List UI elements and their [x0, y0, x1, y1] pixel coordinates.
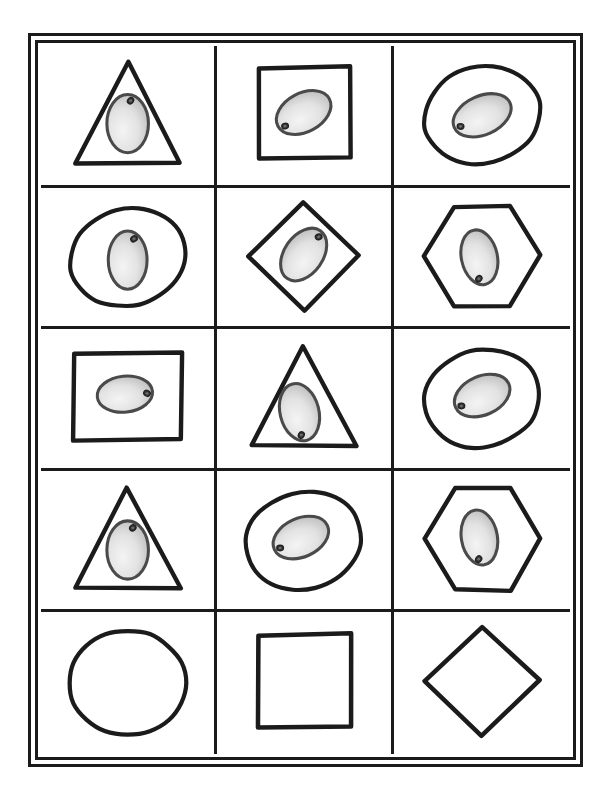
grid-cell-6[interactable]	[394, 188, 570, 330]
egg-body	[447, 366, 516, 425]
inner-frame	[35, 40, 576, 760]
shape-square	[258, 634, 351, 728]
shape-circle	[70, 632, 187, 735]
grid-cell-4[interactable]	[41, 188, 217, 330]
egg	[107, 521, 149, 579]
egg	[267, 508, 336, 567]
egg	[447, 366, 516, 425]
shape-grid	[41, 46, 570, 754]
egg-spot-highlight	[129, 100, 132, 102]
grid-cell-13[interactable]	[41, 612, 217, 754]
grid-cell-10[interactable]	[41, 471, 217, 613]
egg	[446, 85, 517, 145]
egg-body	[267, 508, 336, 567]
worksheet-page	[0, 0, 611, 811]
outer-frame	[28, 33, 583, 767]
egg	[108, 231, 147, 289]
egg-spot-highlight	[132, 237, 135, 239]
grid-cell-14[interactable]	[217, 612, 393, 754]
grid-cell-2[interactable]	[217, 46, 393, 188]
egg-body	[108, 231, 147, 289]
egg	[456, 507, 501, 568]
grid-cell-11[interactable]	[217, 471, 393, 613]
egg	[269, 82, 339, 144]
grid-cell-3[interactable]	[394, 46, 570, 188]
grid-cell-15[interactable]	[394, 612, 570, 754]
shape-diamond	[424, 627, 539, 736]
grid-cell-7[interactable]	[41, 329, 217, 471]
egg-body	[107, 521, 149, 579]
grid-cell-12[interactable]	[394, 471, 570, 613]
grid-cell-8[interactable]	[217, 329, 393, 471]
egg	[456, 226, 503, 288]
egg	[95, 374, 154, 416]
grid-cell-1[interactable]	[41, 46, 217, 188]
egg	[107, 95, 149, 153]
grid-cell-9[interactable]	[394, 329, 570, 471]
egg	[271, 219, 336, 289]
egg-body	[269, 82, 339, 144]
grid-cell-5[interactable]	[217, 188, 393, 330]
egg-body	[271, 219, 336, 289]
egg-body	[446, 85, 517, 145]
egg-spot-highlight	[131, 526, 134, 528]
